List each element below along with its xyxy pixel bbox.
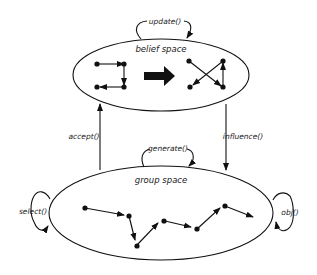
accept-edge: accept()	[68, 104, 100, 170]
obj-label: obj()	[281, 208, 298, 217]
individual-path-icon	[82, 203, 253, 248]
update-loop: update()	[136, 17, 190, 39]
obj-loop: obj()	[273, 193, 299, 231]
select-label: select()	[19, 207, 47, 216]
select-loop: select()	[19, 192, 50, 230]
generate-label: generate()	[148, 144, 188, 153]
generate-loop: generate()	[142, 144, 193, 167]
influence-edge: influence()	[223, 104, 263, 170]
group-space-label: group space	[135, 175, 188, 185]
cultural-algorithm-diagram: belief space	[0, 0, 317, 275]
accept-label: accept()	[68, 132, 99, 141]
belief-space-node: belief space	[73, 17, 249, 111]
transform-arrow-icon	[144, 66, 175, 86]
belief-after-graph-icon	[186, 58, 225, 89]
influence-label: influence()	[223, 132, 263, 141]
belief-space-label: belief space	[135, 44, 186, 54]
update-label: update()	[149, 17, 181, 26]
group-space-node: generate() group space generate()	[19, 144, 299, 260]
belief-before-graph-icon	[94, 61, 126, 89]
